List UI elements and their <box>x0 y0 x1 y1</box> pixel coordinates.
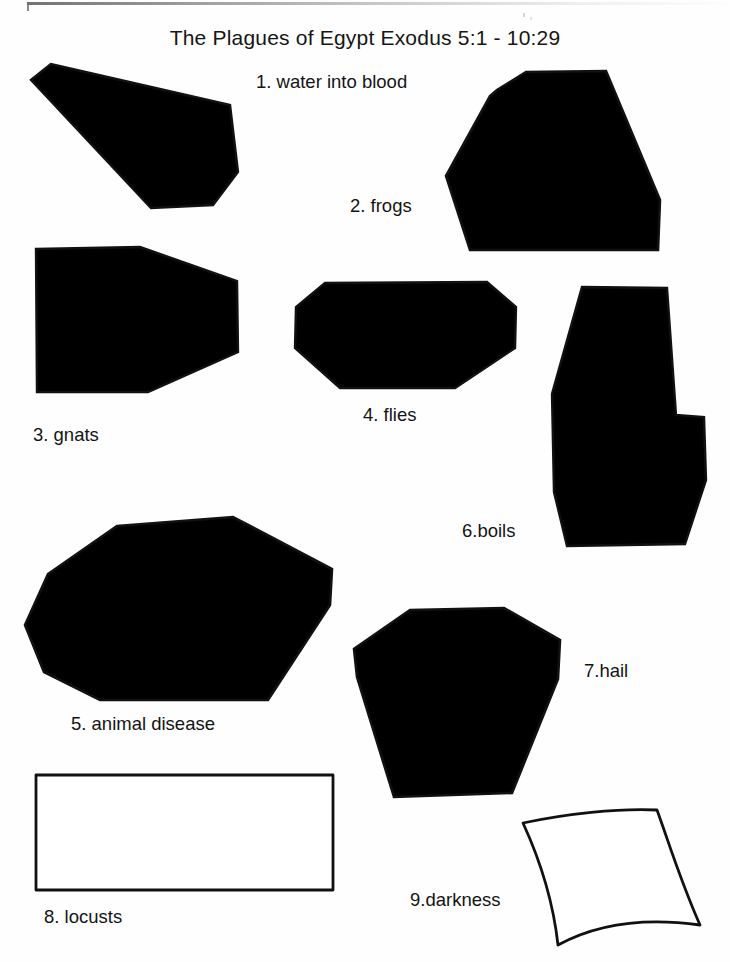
shape-6-boils <box>552 287 706 546</box>
shape-label-8: 8. locusts <box>44 906 122 928</box>
shape-9-darkness <box>523 810 700 945</box>
shape-4-flies <box>295 282 516 388</box>
shape-label-9: 9.darkness <box>410 889 501 911</box>
shape-label-2: 2. frogs <box>350 195 412 217</box>
shape-label-6: 6.boils <box>462 520 515 542</box>
shape-label-3: 3. gnats <box>33 424 99 446</box>
shapes-layer <box>0 0 730 962</box>
shape-3-gnats <box>36 247 238 392</box>
shape-2-frogs <box>446 71 660 250</box>
shape-5-animal-disease <box>25 517 332 700</box>
shape-8-locusts <box>36 775 333 890</box>
shape-label-5: 5. animal disease <box>71 713 215 735</box>
shape-label-4: 4. flies <box>363 404 416 426</box>
shape-1-water-into-blood <box>31 64 238 208</box>
shape-7-hail <box>354 608 560 797</box>
shape-label-7: 7.hail <box>584 660 628 682</box>
shape-label-1: 1. water into blood <box>256 71 407 93</box>
worksheet-page: The Plagues of Egypt Exodus 5:1 - 10:29 … <box>0 0 730 962</box>
